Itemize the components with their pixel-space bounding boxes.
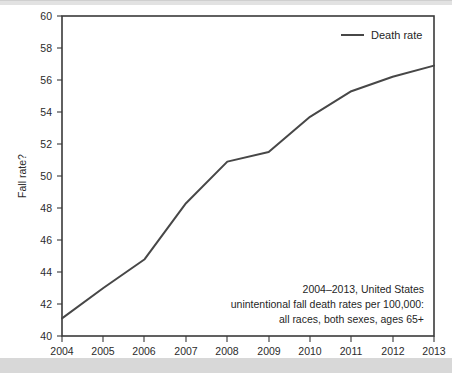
y-tick-label-48: 48 — [40, 202, 52, 214]
legend-label-death-rate: Death rate — [371, 29, 422, 41]
y-axis-tick-labels: 60 58 56 54 52 50 48 46 44 42 40 — [40, 10, 52, 342]
y-tick-label-40: 40 — [40, 330, 52, 342]
x-tick-label-2006: 2006 — [132, 345, 156, 357]
x-tick-label-2007: 2007 — [174, 345, 198, 357]
y-tick-label-50: 50 — [40, 170, 52, 182]
x-tick-label-2004: 2004 — [50, 345, 74, 357]
y-tick-label-42: 42 — [40, 298, 52, 310]
y-tick-label-58: 58 — [40, 42, 52, 54]
annotation-line-2: unintentional fall death rates per 100,0… — [231, 298, 424, 310]
top-divider-line — [0, 0, 452, 1]
y-tick-label-52: 52 — [40, 138, 52, 150]
chart-page: 60 58 56 54 52 50 48 46 44 42 40 Fall ra… — [0, 0, 452, 373]
x-axis-tick-labels: 2004 2005 2006 2007 2008 2009 2010 2011 … — [50, 345, 446, 357]
y-tick-label-44: 44 — [40, 266, 52, 278]
x-tick-label-2011: 2011 — [340, 345, 363, 357]
y-tick-label-60: 60 — [40, 10, 52, 22]
x-axis-ticks — [62, 336, 434, 342]
y-tick-label-46: 46 — [40, 234, 52, 246]
x-tick-label-2008: 2008 — [215, 345, 239, 357]
y-tick-label-54: 54 — [40, 106, 52, 118]
x-tick-label-2005: 2005 — [91, 345, 115, 357]
line-chart-figure: 60 58 56 54 52 50 48 46 44 42 40 Fall ra… — [0, 5, 452, 358]
x-tick-label-2010: 2010 — [298, 345, 322, 357]
bottom-decorative-bar — [0, 358, 452, 373]
x-tick-label-2009: 2009 — [257, 345, 281, 357]
y-axis-title: Fall rate? — [16, 154, 28, 198]
x-tick-label-2012: 2012 — [381, 345, 405, 357]
chart-svg: 60 58 56 54 52 50 48 46 44 42 40 Fall ra… — [0, 5, 452, 358]
y-tick-label-56: 56 — [40, 74, 52, 86]
annotation-line-1: 2004–2013, United States — [303, 283, 424, 295]
x-tick-label-2013: 2013 — [422, 345, 446, 357]
annotation-line-3: all races, both sexes, ages 65+ — [279, 313, 424, 325]
